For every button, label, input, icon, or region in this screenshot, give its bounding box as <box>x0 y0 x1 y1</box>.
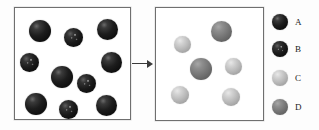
legend-item-a: A <box>272 10 318 34</box>
arrow-head <box>147 60 153 68</box>
particle-a <box>97 19 118 40</box>
particle-a <box>96 95 117 116</box>
legend-swatch-c-icon <box>272 70 288 86</box>
legend-item-c: C <box>272 66 318 90</box>
legend-swatch-b-icon <box>272 41 288 57</box>
particle-d <box>190 58 212 80</box>
legend-item-d: D <box>272 95 318 119</box>
reactant-box <box>14 7 131 120</box>
legend-item-b: B <box>272 37 318 61</box>
particle-b <box>59 100 78 119</box>
particle-a <box>51 66 73 88</box>
particle-c <box>174 36 191 53</box>
particle-a <box>101 52 122 73</box>
particle-b <box>64 28 83 47</box>
legend-label-c: C <box>295 74 301 83</box>
particle-a <box>29 20 51 42</box>
product-box <box>155 7 264 121</box>
particle-c <box>222 88 240 106</box>
particle-b <box>77 74 96 93</box>
legend-swatch-d-icon <box>272 99 288 115</box>
legend-label-d: D <box>295 103 302 112</box>
figure-canvas: A B C D <box>0 0 319 130</box>
legend-label-a: A <box>295 18 302 27</box>
particle-d <box>211 21 232 42</box>
particle-c <box>171 86 189 104</box>
reaction-arrow-icon <box>132 58 153 70</box>
particle-c <box>225 58 242 75</box>
legend-swatch-a-icon <box>272 14 288 30</box>
legend-label-b: B <box>295 45 301 54</box>
legend: A B C D <box>272 6 318 124</box>
particle-a <box>25 93 47 115</box>
particle-b <box>20 53 39 72</box>
